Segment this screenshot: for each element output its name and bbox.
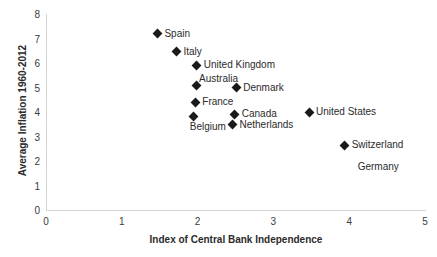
data-point-label: Switzerland [352, 139, 404, 150]
plot-area: SpainItalyUnited KingdomAustraliaDenmark… [46, 14, 425, 210]
x-tick-5: 5 [422, 216, 428, 227]
data-point-label: Netherlands [239, 119, 293, 130]
data-point-label: Denmark [243, 82, 284, 93]
data-point-label: Spain [164, 28, 190, 39]
diamond-marker-icon [171, 47, 181, 57]
diamond-marker-icon [152, 29, 162, 39]
x-axis-line [46, 210, 426, 211]
x-axis-title: Index of Central Bank Independence [46, 234, 426, 245]
diamond-marker-icon [228, 120, 238, 130]
x-tick-4: 4 [346, 216, 352, 227]
data-point-label: Italy [183, 46, 201, 57]
diamond-marker-icon [190, 97, 200, 107]
diamond-marker-icon [192, 60, 202, 70]
data-point-label: Canada [242, 108, 277, 119]
scatter-chart: 012345678 012345 SpainItalyUnited Kingdo… [0, 0, 437, 257]
data-point-label-secondary: Germany [358, 161, 399, 172]
diamond-marker-icon [340, 140, 350, 150]
data-point-label: United States [316, 106, 376, 117]
y-axis-title: Average Inflation 1960-2012 [17, 1, 28, 221]
x-tick-1: 1 [119, 216, 125, 227]
data-point-label: United Kingdom [204, 59, 275, 70]
x-tick-0: 0 [43, 216, 49, 227]
data-point-label: Australia [199, 73, 238, 84]
data-point-label: Belgium [190, 121, 226, 132]
diamond-marker-icon [230, 109, 240, 119]
data-point-label: France [202, 96, 233, 107]
diamond-marker-icon [304, 107, 314, 117]
x-tick-2: 2 [195, 216, 201, 227]
x-tick-3: 3 [271, 216, 277, 227]
